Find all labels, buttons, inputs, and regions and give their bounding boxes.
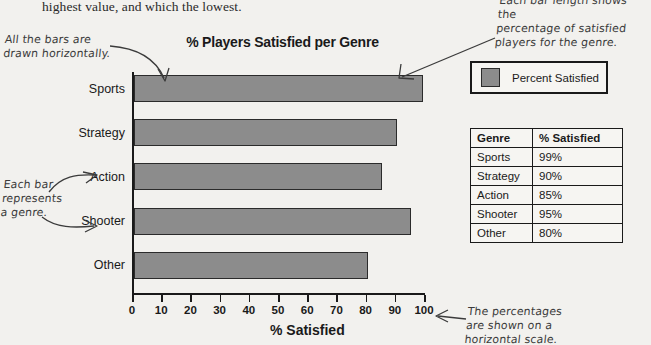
- x-axis-tick-label: 90: [388, 304, 401, 316]
- table-cell-satisfied: 80%: [533, 224, 623, 243]
- annotation-bar-length: Each bar length shows the percentage of …: [494, 0, 630, 50]
- chart-plot-area: SportsStrategyActionShooterOther: [132, 72, 424, 293]
- table-row: Strategy90%: [471, 167, 623, 186]
- bar-action: [134, 163, 382, 190]
- annotation-horizontal-scale: The percentages are shown on a horizonta…: [464, 305, 598, 345]
- bar-category-label: Sports: [89, 82, 125, 96]
- table-cell-genre: Action: [471, 186, 533, 205]
- x-axis-tick-label: 40: [242, 304, 255, 316]
- x-axis-tick-label: 30: [213, 304, 226, 316]
- bar-row: Action: [134, 163, 426, 190]
- x-axis-tick-label: 80: [359, 304, 372, 316]
- x-axis-tick-label: 50: [272, 304, 285, 316]
- annotation-each-bar-genre: Each bar represents a genre.: [0, 178, 64, 220]
- chart-legend: Percent Satisfied: [470, 61, 608, 94]
- table-cell-genre: Sports: [471, 148, 533, 167]
- table-row: Action85%: [471, 186, 623, 205]
- x-axis-tick: [307, 295, 309, 302]
- x-axis-tick: [424, 295, 426, 302]
- x-axis-tick: [249, 295, 251, 302]
- bar-category-label: Shooter: [81, 214, 125, 228]
- bar-sports: [134, 75, 423, 102]
- x-axis-tick: [395, 295, 397, 302]
- table-header-satisfied: % Satisfied: [533, 129, 623, 148]
- legend-swatch-percent-satisfied: [481, 68, 500, 87]
- x-axis-tick-label: 20: [184, 304, 197, 316]
- chart-title: % Players Satisfied per Genre: [155, 34, 410, 50]
- table-row: Other80%: [471, 224, 623, 243]
- x-axis-tick-label: 10: [155, 304, 168, 316]
- table-cell-genre: Strategy: [471, 167, 533, 186]
- x-axis-tick-label: 0: [129, 304, 135, 316]
- bar-strategy: [134, 119, 397, 146]
- table-row: Shooter95%: [471, 205, 623, 224]
- bar-row: Shooter: [134, 208, 426, 235]
- data-table: Genre % Satisfied Sports99%Strategy90%Ac…: [470, 128, 623, 243]
- table-body: Sports99%Strategy90%Action85%Shooter95%O…: [471, 148, 623, 243]
- bar-row: Other: [134, 252, 426, 279]
- x-axis-tick: [336, 295, 338, 302]
- bar-row: Sports: [134, 75, 426, 102]
- table-header-genre: Genre: [471, 129, 533, 148]
- x-axis-tick-label: 70: [330, 304, 343, 316]
- x-axis-tick: [190, 295, 192, 302]
- bar-category-label: Strategy: [78, 126, 125, 140]
- x-axis-tick: [366, 295, 368, 302]
- table-header-row: Genre % Satisfied: [471, 129, 623, 148]
- x-axis-tick: [220, 295, 222, 302]
- x-axis-title: % Satisfied: [270, 322, 345, 338]
- table-cell-satisfied: 95%: [533, 205, 623, 224]
- x-axis-tick: [132, 295, 134, 302]
- bar-other: [134, 252, 368, 279]
- x-axis-tick-label: 60: [301, 304, 314, 316]
- table-cell-satisfied: 90%: [533, 167, 623, 186]
- table-cell-genre: Shooter: [471, 205, 533, 224]
- annotation-bars-horizontal: All the bars are drawn horizontally.: [3, 33, 113, 61]
- x-axis-tick-label: 100: [414, 304, 433, 316]
- bar-category-label: Action: [90, 170, 125, 184]
- legend-label-percent-satisfied: Percent Satisfied: [512, 72, 599, 84]
- table-row: Sports99%: [471, 148, 623, 167]
- table-cell-satisfied: 85%: [533, 186, 623, 205]
- bar-row: Strategy: [134, 119, 426, 146]
- bar-category-label: Other: [94, 258, 125, 272]
- x-axis-tick: [161, 295, 163, 302]
- bar-shooter: [134, 208, 411, 235]
- table-cell-satisfied: 99%: [533, 148, 623, 167]
- x-axis: 0102030405060708090100: [132, 293, 425, 295]
- table-cell-genre: Other: [471, 224, 533, 243]
- x-axis-tick: [278, 295, 280, 302]
